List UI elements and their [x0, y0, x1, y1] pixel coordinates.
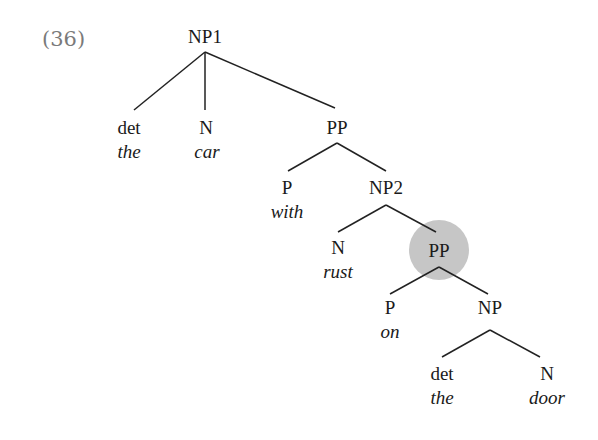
syntax-tree: (36) NP1 det the N car PP P with NP2 N r… — [0, 0, 598, 440]
node-n1: N — [199, 117, 213, 138]
word-rust: rust — [323, 261, 353, 282]
node-np2: NP2 — [369, 177, 403, 198]
node-n2: N — [331, 237, 345, 258]
word-with: with — [271, 201, 304, 222]
node-det1: det — [117, 117, 141, 138]
example-number: (36) — [42, 27, 85, 51]
node-np3: NP — [478, 297, 502, 318]
word-door: door — [529, 387, 566, 408]
word-the-2: the — [430, 387, 453, 408]
node-n3: N — [540, 363, 554, 384]
node-np1: NP1 — [188, 26, 222, 47]
word-the-1: the — [117, 141, 140, 162]
word-on: on — [381, 321, 400, 342]
node-pp1: PP — [326, 117, 347, 138]
node-p1: P — [282, 177, 293, 198]
node-pp2-highlighted: PP — [428, 240, 449, 261]
node-p2: P — [385, 297, 396, 318]
word-car: car — [194, 141, 220, 162]
node-det2: det — [430, 363, 454, 384]
